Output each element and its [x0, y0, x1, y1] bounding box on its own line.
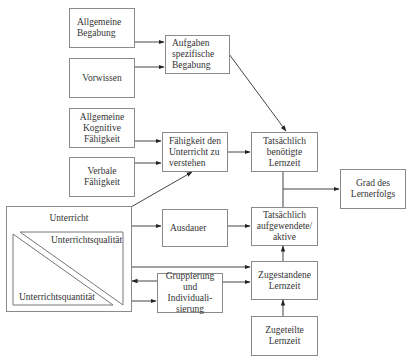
arrow-unterricht-to-faehigkeit	[131, 172, 192, 207]
node-faehigkeit-unterricht-verstehen: Fähigkeit den Unterricht zu verstehen	[162, 132, 228, 172]
node-vorwissen: Vorwissen	[69, 58, 135, 98]
node-ausdauer: Ausdauer	[162, 209, 228, 247]
label-unterrichtsquantitaet: Unterrichtsquantität	[19, 292, 95, 302]
node-allgemeine-kognitive-faehigkeit: Allgemeine Kognitive Fähigkeit	[69, 108, 135, 148]
node-aufgaben-spezifische-begabung: Aufgaben spezifische Begabung	[165, 35, 230, 74]
node-label: Zugeteilte Lernzeit	[265, 325, 304, 347]
node-gruppierung-individualisierung: Gruppierung und Individuali- sierung	[157, 273, 223, 313]
node-grad-des-lernerfolgs: Grad des Lernerfolgs	[340, 169, 406, 209]
node-label: Fähigkeit den Unterricht zu verstehen	[169, 136, 221, 169]
node-label: Zugestandene Lernzeit	[258, 270, 311, 292]
label-unterrichtsqualitaet: Unterrichtsqualität	[51, 235, 122, 245]
node-label: Unterricht	[49, 213, 88, 224]
node-tatsaechlich-aufgewendete-aktive: Tatsächlich aufgewendete/ aktive	[251, 207, 318, 246]
node-label: Tatsächlich aufgewendete/ aktive	[257, 210, 312, 243]
node-label: Vorwissen	[82, 73, 121, 84]
node-label: Ausdauer	[170, 223, 206, 234]
node-label: Allgemeine Begabung	[77, 17, 121, 39]
node-label: Allgemeine Kognitive Fähigkeit	[80, 112, 124, 145]
node-label: Gruppierung und Individuali- sierung	[160, 271, 220, 315]
node-label: Grad des Lernerfolgs	[351, 178, 395, 200]
node-label: Aufgaben spezifische Begabung	[172, 38, 214, 71]
node-label: Tatsächlich benötigte Lernzeit	[263, 136, 306, 169]
node-tatsaechlich-benoetigte-lernzeit: Tatsächlich benötigte Lernzeit	[251, 132, 318, 172]
node-label: Verbale Fähigkeit	[84, 166, 120, 188]
node-verbale-faehigkeit: Verbale Fähigkeit	[69, 157, 135, 197]
node-zugestandene-lernzeit: Zugestandene Lernzeit	[251, 261, 318, 300]
arrow-aufgaben-to-benoetigte	[229, 54, 286, 131]
node-allgemeine-begabung: Allgemeine Begabung	[69, 8, 135, 48]
node-zugeteilte-lernzeit: Zugeteilte Lernzeit	[251, 316, 318, 356]
